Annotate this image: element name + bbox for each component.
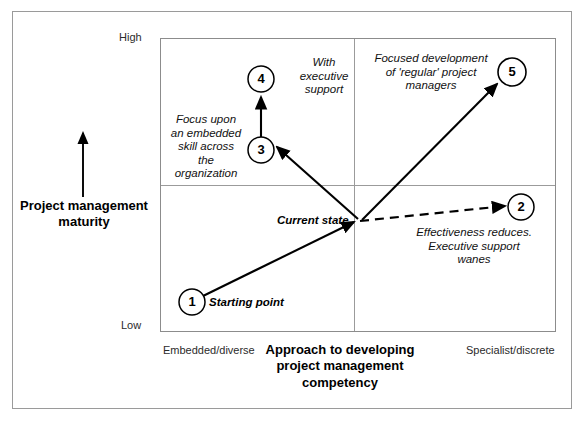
annotation-effectiveness-reduces: Effectiveness reduces. Executive support… (412, 226, 536, 267)
annotation-focus-embedded-skill: Focus upon an embedded skill across the … (160, 113, 252, 181)
diagram-canvas: High Low Project management maturity Emb… (0, 0, 585, 422)
annotation-starting-point: Starting point (209, 296, 284, 310)
annotation-line: skill across (160, 140, 252, 154)
annotation-focused-development: Focused development of 'regular' project… (370, 52, 492, 93)
annotation-with-executive-support: With executive support (281, 56, 367, 97)
annotation-line: Executive support (412, 240, 536, 254)
x-axis-title-line1: Approach to developing (240, 342, 440, 358)
annotation-current-state: Current state (277, 214, 349, 228)
x-axis-title: Approach to developing project managemen… (240, 342, 440, 391)
x-axis-title-line3: competency (240, 375, 440, 391)
x-axis-title-line2: project management (240, 358, 440, 374)
y-axis-low-label: Low (121, 319, 141, 332)
y-axis-title-line1: Project management (14, 198, 154, 214)
annotation-line: the (160, 154, 252, 168)
annotation-line: With (281, 56, 367, 70)
quadrant-horizontal-divider (161, 185, 555, 186)
annotation-line: Effectiveness reduces. (412, 226, 536, 240)
annotation-line: organization (160, 167, 252, 181)
y-axis-title-line2: maturity (14, 214, 154, 230)
annotation-line: Focus upon (160, 113, 252, 127)
annotation-line: of 'regular' project (370, 66, 492, 80)
annotation-line: managers (370, 79, 492, 93)
annotation-line: support (281, 83, 367, 97)
annotation-line: wanes (412, 253, 536, 267)
x-axis-right-label: Specialist/discrete (466, 344, 555, 357)
y-axis-high-label: High (119, 31, 142, 44)
y-axis-title: Project management maturity (14, 198, 154, 231)
annotation-line: an embedded (160, 127, 252, 141)
annotation-line: Focused development (370, 52, 492, 66)
annotation-line: executive (281, 70, 367, 84)
